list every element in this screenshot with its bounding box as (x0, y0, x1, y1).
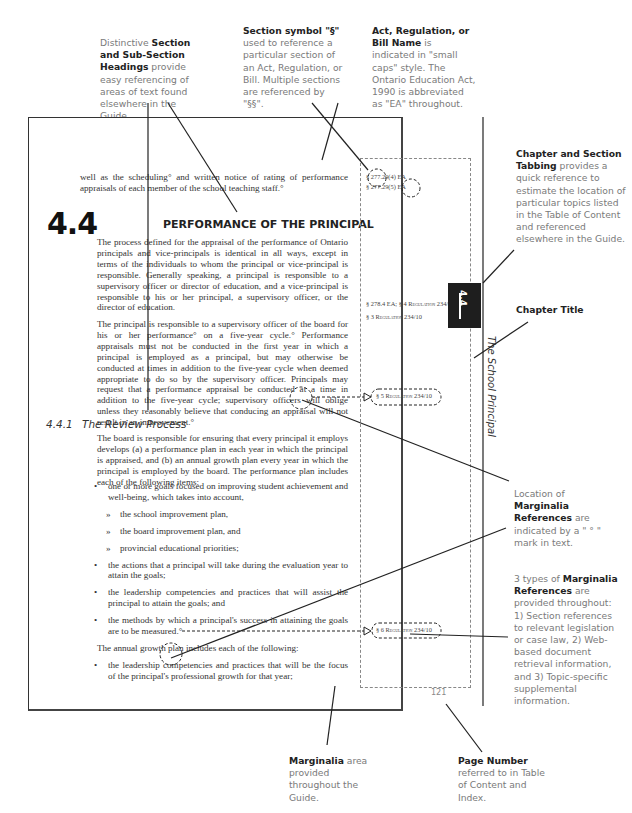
section-number: 4.4 (47, 206, 97, 241)
callout-bold: Marginalia (289, 755, 344, 766)
marginalia-ref: § 278.4 EA; § 4 Regulation 234/10 (366, 300, 455, 307)
subsection-heading: 4.4.1The Review Process (46, 418, 186, 430)
callout-section-symbol: Section symbol "§" used to reference a p… (243, 25, 343, 110)
callout-bold: Section symbol "§" (243, 25, 339, 36)
list-item: the leadership competencies and practice… (94, 587, 348, 609)
list-subitem: provincial educational priorities; (94, 543, 348, 554)
section-title: PERFORMANCE OF THE PRINCIPAL (163, 218, 374, 231)
callout-text: used to reference a particular section o… (243, 37, 342, 109)
callout-marginalia-location: Location of Marginalia References are in… (514, 488, 614, 549)
paragraph-3: The board is responsible for ensuring th… (97, 433, 348, 488)
section-tab: 4.4 (448, 283, 481, 328)
callout-text: 3 types of (514, 573, 563, 584)
list-subitem: the board improvement plan, and (94, 526, 348, 537)
callout-text: referred to in Table of Content and Inde… (458, 767, 545, 802)
paragraph-2: The principal is responsible to a superv… (97, 319, 348, 428)
callout-marginalia-area: Marginalia area provided throughout the … (289, 755, 379, 804)
callout-text: Distinctive (100, 37, 152, 48)
callout-bold: Marginalia References (514, 500, 572, 523)
growth-plan-list: the leadership competencies and practice… (94, 660, 348, 688)
intro-text: well as the scheduling° and written noti… (80, 172, 348, 194)
marginalia-area (360, 158, 471, 688)
performance-plan-list: one or more goals focused on improving s… (94, 481, 348, 643)
list-item: one or more goals focused on improving s… (94, 481, 348, 503)
callout-act-name: Act, Regulation, or Bill Name is indicat… (372, 25, 477, 110)
list-subitem: the school improvement plan, (94, 509, 348, 520)
callout-page-number: Page Number referred to in Table of Cont… (458, 755, 550, 804)
marginalia-ref: § 277.29(4) EA (366, 173, 406, 180)
list-item: the actions that a principal will take d… (94, 560, 348, 582)
subsection-title: The Review Process (82, 418, 186, 430)
callout-tabbing: Chapter and Section Tabbing provides a q… (516, 148, 626, 246)
callout-bold: Chapter Title (516, 304, 584, 315)
marginalia-ref: § 277.29(5) EA (366, 183, 406, 190)
page-number: 121 (431, 688, 446, 697)
list-item: the leadership competencies and practice… (94, 660, 348, 682)
marginalia-ref: § 6 Regulation 234/10 (376, 626, 432, 633)
tab-label: 4.4 (458, 290, 468, 306)
callout-text: are provided throughout: 1) Section refe… (514, 585, 614, 706)
marginalia-ref: § 3 Regulation 234/10 (366, 313, 422, 320)
callout-section-headings: Distinctive Section and Sub-Section Head… (100, 37, 200, 122)
callout-chapter-title: Chapter Title (516, 304, 626, 316)
subsection-number: 4.4.1 (46, 418, 82, 430)
callout-marginalia-types: 3 types of Marginalia References are pro… (514, 573, 618, 707)
marginalia-ref: § 5 Regulation 234/10 (376, 392, 432, 399)
paragraph-4: The annual growth plan includes each of … (97, 643, 348, 654)
callout-bold: Page Number (458, 755, 528, 766)
list-item: the methods by which a principal's succe… (94, 615, 348, 637)
chapter-title: The School Principal (486, 336, 497, 437)
paragraph-1: The process defined for the appraisal of… (97, 237, 348, 313)
callout-text: Location of (514, 488, 565, 499)
callout-text: provides a quick reference to estimate t… (516, 160, 626, 244)
